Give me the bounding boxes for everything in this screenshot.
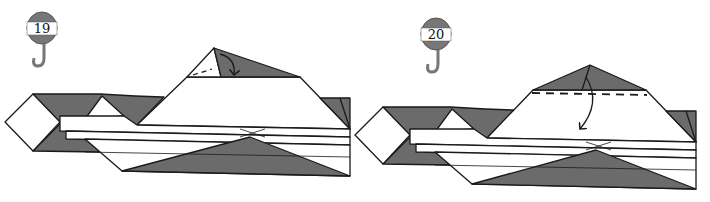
step-19-figure: 19 xyxy=(5,12,350,176)
step-badge: 19 xyxy=(27,12,57,66)
diagram-canvas: 19 xyxy=(0,0,710,202)
hook-icon xyxy=(428,50,439,72)
hook-icon xyxy=(34,44,45,66)
paper-model xyxy=(355,65,696,189)
step-20-figure: 20 xyxy=(355,18,696,189)
step-number: 19 xyxy=(34,21,51,36)
paper-model xyxy=(5,48,350,176)
step-number: 20 xyxy=(428,27,445,42)
step-badge: 20 xyxy=(421,18,451,72)
